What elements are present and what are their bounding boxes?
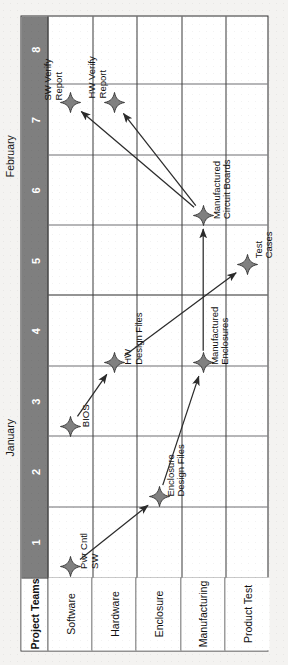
milestone-label-hw-verify-report: HW Verify Report — [86, 56, 107, 98]
grid-vline-week-8 — [48, 83, 267, 84]
week-tick-5: 5 — [21, 225, 48, 295]
month-label-february: February — [0, 15, 18, 297]
milestone-chart: Project Teams 12345678 SoftwareHardwareE… — [20, 15, 268, 651]
milestone-label-sw-verify-report: SW Verify Report — [42, 58, 63, 100]
milestone-label-manufactured-circuit-boards: Manufactured Circuit Boards — [211, 159, 232, 219]
team-row-label-hardware: Hardware — [92, 577, 136, 650]
grid-vline-week-4 — [48, 365, 267, 366]
chart-stage: January February Project Teams 12345678 … — [0, 0, 288, 665]
team-row-label-enclosure: Enclosure — [136, 577, 180, 650]
grid-vline-week-6 — [48, 224, 267, 225]
dependency-arrow-manufactured-circuit-boards-to-hw-verify-report — [123, 113, 195, 205]
grid-hline-1 — [92, 16, 93, 577]
milestone-label-manufactured-enclosures: Manufactured Enclosures — [209, 306, 230, 364]
week-tick-1: 1 — [21, 507, 48, 577]
week-tick-3: 3 — [21, 366, 48, 436]
month-label-january: January — [0, 297, 18, 579]
team-row-label-software: Software — [48, 577, 92, 650]
milestone-label-bios: BIOS — [80, 404, 91, 427]
week-tick-6: 6 — [21, 155, 48, 225]
week-tick-2: 2 — [21, 436, 48, 506]
week-tick-4: 4 — [21, 296, 48, 366]
dependency-arrows — [21, 14, 269, 650]
grid-hline-2 — [136, 16, 137, 577]
rotated-page-wrapper: January February Project Teams 12345678 … — [0, 0, 288, 665]
milestone-label-pwr-cntl-sw: Pwr Cntl SW — [78, 533, 99, 569]
team-row-label-product-test: Product Test — [225, 577, 269, 650]
grid-hline-4 — [225, 16, 226, 577]
milestone-label-hw-design-files: HW Design Files — [122, 312, 143, 364]
grid-vline-week-5 — [48, 295, 267, 296]
milestone-label-enclosure-design-files: Enclosure Design Files — [165, 444, 186, 496]
milestone-star-icon — [59, 415, 81, 437]
team-row-label-manufacturing: Manufacturing — [181, 577, 225, 650]
milestone-label-test-cases: Test Cases — [253, 231, 274, 258]
grid-vline-week-7 — [48, 154, 267, 155]
